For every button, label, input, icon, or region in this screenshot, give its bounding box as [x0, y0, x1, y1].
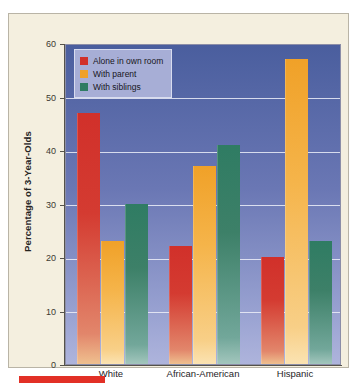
figure-root: Percentage of 3-Year-Olds 60 50 40 30 20…: [0, 0, 359, 387]
bar-hispanic-with-parent[interactable]: [285, 59, 308, 364]
bar-african-american-with-siblings[interactable]: [217, 145, 240, 364]
plot-area: Alone in own room With parent With sibli…: [65, 44, 341, 365]
legend-item-with-siblings[interactable]: With siblings: [80, 80, 163, 93]
legend-swatch-with-siblings-icon: [80, 83, 88, 91]
bar-african-american-with-parent[interactable]: [193, 166, 216, 364]
chart-card: Percentage of 3-Year-Olds 60 50 40 30 20…: [8, 13, 349, 368]
y-tick-label-20: 20: [46, 253, 56, 263]
y-tick-label-40: 40: [46, 146, 56, 156]
x-axis-label-hispanic: Hispanic: [277, 368, 313, 379]
bar-hispanic-alone[interactable]: [261, 257, 284, 364]
legend: Alone in own room With parent With sibli…: [74, 49, 172, 98]
y-tick-label-30: 30: [46, 200, 56, 210]
bar-hispanic-with-siblings[interactable]: [309, 241, 332, 364]
x-axis-labels: White African-American Hispanic: [65, 368, 341, 384]
y-tick-label-60: 60: [46, 39, 56, 49]
bar-white-alone[interactable]: [77, 113, 100, 364]
y-tick-label-10: 10: [46, 307, 56, 317]
legend-label-alone: Alone in own room: [93, 56, 163, 66]
legend-swatch-alone-icon: [80, 57, 88, 65]
footer-red-marker: [19, 376, 105, 383]
legend-label-with-siblings: With siblings: [93, 82, 141, 92]
legend-label-with-parent: With parent: [93, 69, 136, 79]
legend-swatch-with-parent-icon: [80, 70, 88, 78]
y-axis-ticks: 60 50 40 30 20 10 0: [9, 44, 65, 365]
y-tick-label-50: 50: [46, 93, 56, 103]
y-tick-label-0: 0: [51, 360, 56, 370]
x-axis-line: [64, 365, 342, 366]
bar-white-with-parent[interactable]: [101, 241, 124, 364]
x-axis-label-african-american: African-American: [167, 368, 240, 379]
bar-white-with-siblings[interactable]: [125, 204, 148, 365]
legend-item-alone[interactable]: Alone in own room: [80, 54, 163, 67]
legend-item-with-parent[interactable]: With parent: [80, 67, 163, 80]
bar-african-american-alone[interactable]: [169, 246, 192, 364]
